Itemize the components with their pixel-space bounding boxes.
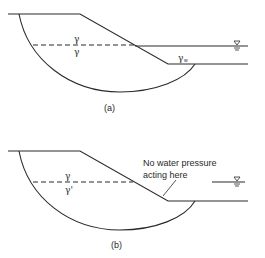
figure-a: γ γ γ w (a) — [8, 14, 248, 113]
ground-profile-a — [8, 14, 248, 64]
unit-weight-water-sub-a: w — [184, 57, 188, 63]
unit-weight-lower-a: γ — [74, 47, 79, 57]
slope-stability-diagram: γ γ γ w (a) γ γ' No water pressure actin… — [0, 0, 265, 258]
annotation-leader-line — [163, 180, 176, 196]
slip-circle-a — [19, 14, 195, 92]
figure-b: γ γ' No water pressure acting here (b) — [8, 151, 248, 250]
unit-weight-lower-b: γ' — [65, 185, 73, 195]
caption-a: (a) — [104, 103, 115, 113]
annotation-line-2: acting here — [143, 170, 188, 180]
caption-b: (b) — [111, 240, 122, 250]
annotation-line-1: No water pressure — [143, 158, 217, 168]
unit-weight-upper-a: γ — [74, 34, 79, 44]
unit-weight-upper-b: γ — [65, 171, 70, 181]
unit-weight-water-a: γ — [178, 53, 183, 63]
